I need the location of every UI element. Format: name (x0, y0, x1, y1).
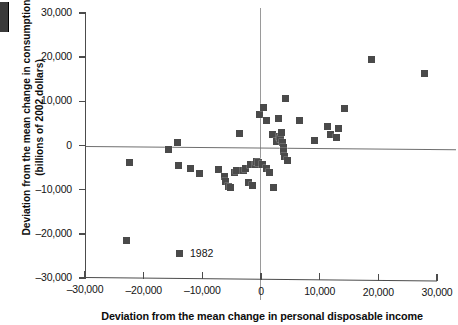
data-point (215, 166, 222, 173)
y-tick (79, 12, 86, 13)
vertical-zero-line (260, 8, 261, 300)
data-point (324, 123, 331, 130)
data-point (296, 117, 303, 124)
y-axis-title-line2: (billions of 2002 dollars) (33, 59, 44, 176)
y-tick-label: 20,000 (41, 50, 72, 62)
data-point (275, 115, 282, 122)
data-point (260, 104, 267, 111)
data-point (126, 159, 133, 166)
chart-legend: 1982 (176, 247, 213, 259)
y-tick (79, 56, 86, 57)
y-tick-label: 10,000 (41, 94, 72, 106)
y-tick (79, 101, 86, 102)
legend-marker-1982 (176, 250, 183, 257)
x-tick (84, 271, 85, 278)
x-tick (319, 273, 320, 280)
data-point (256, 111, 263, 118)
y-axis-title: Deviation from the mean change in consum… (21, 0, 46, 243)
data-point (236, 130, 243, 137)
x-axis-title: Deviation from the mean change in person… (66, 310, 458, 322)
data-point (249, 182, 256, 189)
data-point (233, 167, 240, 174)
x-tick (260, 273, 261, 280)
scatter-chart: 30,00020,00010,0000–10,000–20,000–30,000… (0, 0, 458, 325)
data-point-1982 (123, 237, 130, 244)
y-tick (79, 145, 86, 146)
y-tick (79, 233, 86, 234)
y-tick-label: 30,000 (41, 6, 72, 18)
data-point (174, 139, 181, 146)
x-tick (436, 274, 437, 281)
data-point (266, 169, 273, 176)
y-axis-title-line1: Deviation from the mean change in consum… (21, 0, 32, 236)
data-point (187, 165, 194, 172)
data-point (333, 134, 340, 141)
data-point (368, 56, 375, 63)
legend-label-1982: 1982 (190, 247, 213, 259)
x-tick (202, 272, 203, 279)
data-point (284, 157, 291, 164)
data-point (335, 125, 342, 132)
y-tick-label: –30,000 (35, 271, 72, 283)
data-point (175, 162, 182, 169)
data-point (282, 95, 289, 102)
x-tick (378, 274, 379, 281)
data-point (278, 129, 285, 136)
data-point (311, 137, 318, 144)
data-point (341, 105, 348, 112)
data-point (421, 70, 428, 77)
y-tick (79, 189, 86, 190)
data-point (165, 146, 172, 153)
x-tick-label: 30,000 (402, 286, 458, 298)
data-point (263, 117, 270, 124)
data-point (227, 184, 234, 191)
data-point (270, 184, 277, 191)
y-tick-label: 0 (66, 139, 72, 151)
x-tick (143, 272, 144, 279)
horizontal-zero-line (86, 146, 456, 151)
data-point (269, 131, 276, 138)
data-point (196, 170, 203, 177)
